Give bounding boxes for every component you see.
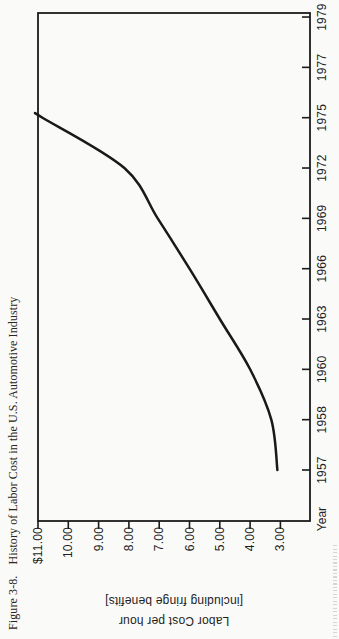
rotated-figure: Figure 3-8.History of Labor Cost in the … (0, 0, 339, 639)
y-tick-label-3.00: 3.00 (272, 527, 288, 551)
x-tick-label-1960: 1960 (315, 341, 329, 397)
y-tick-label-11.00: $11.00 (30, 527, 46, 564)
y-tick-label-6.00: 6.00 (182, 527, 198, 551)
x-axis-title: Year (315, 491, 329, 547)
x-tick-label-1969: 1969 (315, 190, 329, 246)
y-tick-label-9.00: 9.00 (91, 527, 107, 551)
x-tick-label-1975: 1975 (315, 90, 329, 146)
x-tick-label-1979: 1979 (315, 0, 329, 45)
y-axis-title-line1: Labor Cost per hour (105, 611, 243, 631)
y-tick-label-4.00: 4.00 (242, 527, 258, 551)
scanned-page: Figure 3-8.History of Labor Cost in the … (0, 0, 339, 639)
x-tick-label-1966: 1966 (315, 241, 329, 297)
plot-border (38, 13, 310, 521)
y-tick-label-8.00: 8.00 (121, 527, 137, 551)
y-axis-title-line2: [including fringe benefits] (105, 591, 243, 611)
labor-cost-curve (35, 113, 277, 470)
x-tick-label-1957: 1957 (315, 442, 329, 498)
y-tick-label-10.00: 10.00 (60, 527, 76, 558)
x-tick-label-1972: 1972 (315, 140, 329, 196)
y-tick-label-7.00: 7.00 (151, 527, 167, 551)
x-tick-label-1958: 1958 (315, 392, 329, 448)
y-axis-title: Labor Cost per hour [including fringe be… (105, 591, 243, 631)
x-tick-label-1963: 1963 (315, 291, 329, 347)
cutoff-print-fragment (333, 545, 337, 637)
y-tick-label-5.00: 5.00 (212, 527, 228, 551)
x-tick-label-1977: 1977 (315, 39, 329, 95)
